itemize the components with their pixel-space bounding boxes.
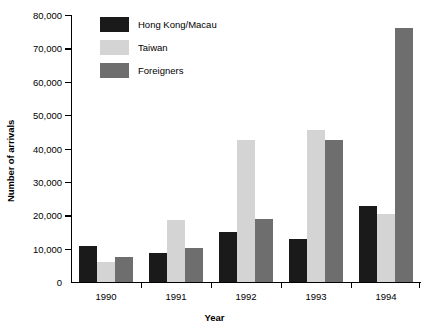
- legend-item: Taiwan: [100, 36, 217, 58]
- y-tick-label: 40,000: [33, 143, 62, 154]
- bar: [79, 246, 97, 282]
- bar: [149, 253, 167, 282]
- y-tick-label: 30,000: [33, 176, 62, 187]
- bar-group: [289, 15, 343, 282]
- bar: [115, 257, 133, 282]
- x-tick-label: 1992: [235, 291, 256, 302]
- legend-item: Foreigners: [100, 59, 217, 81]
- x-tick-label: 1994: [375, 291, 396, 302]
- bar: [307, 130, 325, 282]
- bar: [185, 248, 203, 282]
- y-tick-mark: [65, 48, 71, 49]
- bar: [377, 214, 395, 282]
- y-tick-label: 20,000: [33, 210, 62, 221]
- bar: [97, 262, 115, 282]
- bar: [325, 140, 343, 282]
- y-tick-mark: [65, 215, 71, 216]
- y-tick-label: 80,000: [33, 10, 62, 21]
- y-tick-label: 70,000: [33, 43, 62, 54]
- bar: [255, 219, 273, 282]
- y-axis-title: Number of arrivals: [2, 96, 18, 226]
- y-tick-label: 50,000: [33, 110, 62, 121]
- bar: [219, 232, 237, 282]
- x-tick-mark: [211, 282, 212, 288]
- y-tick-mark: [65, 149, 71, 150]
- x-tick-label: 1990: [95, 291, 116, 302]
- y-tick-mark: [65, 82, 71, 83]
- legend-item: Hong Kong/Macau: [100, 13, 217, 35]
- y-tick-label: 60,000: [33, 76, 62, 87]
- bar: [289, 239, 307, 282]
- bar-chart: Number of arrivals 010,00020,00030,00040…: [0, 0, 429, 330]
- legend-swatch: [100, 40, 129, 55]
- y-tick-mark: [65, 182, 71, 183]
- bar: [395, 28, 413, 282]
- x-tick-mark: [419, 282, 420, 288]
- chart-legend: Hong Kong/MacauTaiwanForeigners: [100, 13, 217, 82]
- bar-group: [359, 15, 413, 282]
- y-tick-label: 10,000: [33, 243, 62, 254]
- y-tick-mark: [65, 249, 71, 250]
- bar: [167, 220, 185, 282]
- legend-label: Taiwan: [138, 42, 168, 53]
- x-tick-mark: [281, 282, 282, 288]
- bar: [359, 206, 377, 282]
- y-tick-mark: [65, 115, 71, 116]
- x-tick-mark: [351, 282, 352, 288]
- legend-label: Foreigners: [138, 65, 183, 76]
- bar: [237, 140, 255, 282]
- x-tick-label: 1991: [165, 291, 186, 302]
- legend-label: Hong Kong/Macau: [138, 19, 217, 30]
- y-tick-label: 0: [57, 277, 62, 288]
- y-tick-mark: [65, 15, 71, 16]
- x-tick-mark: [141, 282, 142, 288]
- legend-swatch: [100, 63, 129, 78]
- legend-swatch: [100, 17, 129, 32]
- x-axis-title: Year: [0, 312, 429, 323]
- bar-group: [219, 15, 273, 282]
- x-tick-label: 1993: [305, 291, 326, 302]
